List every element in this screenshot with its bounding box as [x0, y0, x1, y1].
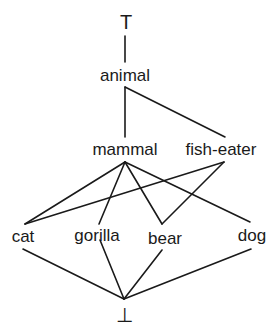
node-mammal: mammal — [92, 141, 157, 158]
node-bear: bear — [148, 230, 182, 247]
node-cat: cat — [12, 228, 35, 245]
edges-layer — [0, 0, 274, 333]
edge-gorilla-bottom — [100, 240, 124, 299]
edge-mammal-gorilla — [99, 162, 125, 224]
edge-mammal-cat — [25, 162, 125, 224]
node-dog: dog — [238, 227, 266, 244]
node-fish-eater: fish-eater — [186, 141, 257, 158]
lattice-diagram: T animal mammal fish-eater cat gorilla b… — [0, 0, 274, 333]
edge-animal-fish-eater — [125, 87, 225, 137]
node-gorilla: gorilla — [74, 227, 119, 244]
edge-cat-bottom — [23, 249, 124, 299]
edge-fish-eater-cat — [25, 162, 224, 224]
node-top: T — [120, 12, 132, 32]
node-bottom: ⊥ — [116, 305, 133, 325]
node-animal: animal — [100, 67, 150, 84]
